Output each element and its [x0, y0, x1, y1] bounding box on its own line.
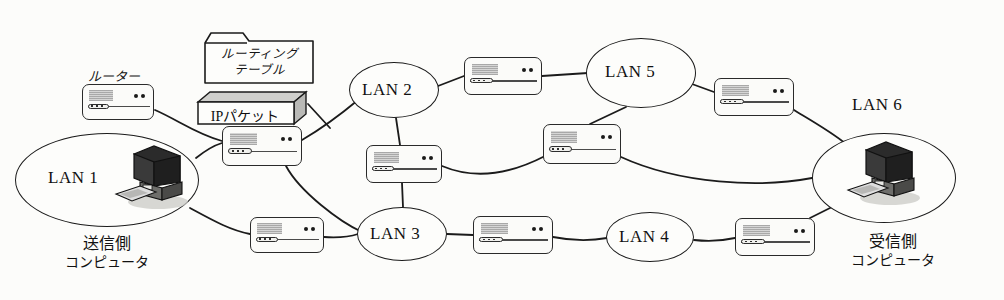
router-status-leds: [794, 229, 805, 233]
router-display: [481, 223, 508, 235]
lan-label-lan5: LAN 5: [605, 62, 655, 82]
router-port-slot: [372, 166, 394, 171]
router-display: [722, 85, 749, 97]
router-status-leds: [601, 135, 612, 139]
link-r-lan1-bottom-to-lan3: [324, 234, 358, 237]
router-display: [472, 64, 498, 76]
ip-packet-label: IPパケット: [196, 105, 294, 125]
router-display: [551, 131, 577, 143]
router-port-slot: [549, 146, 572, 152]
router-r-lan1-bottom: [250, 217, 324, 253]
link-ip-packet-to-r-lan1-top: [308, 104, 330, 128]
link-lan2-to-r-lan2-lan5: [438, 76, 464, 86]
link-r-lan1-top-to-lan2: [302, 100, 358, 140]
routing-table-line1: ルーティング: [203, 47, 315, 62]
link-lan3-to-r-lan3-lan4: [447, 234, 473, 235]
receiver-caption: 受信側 コンピュータ: [828, 232, 958, 269]
router-status-leds: [281, 137, 292, 141]
router-display: [89, 90, 113, 101]
receiver-line2: コンピュータ: [828, 251, 958, 269]
link-lan1-to-r-lan1-bottom: [190, 208, 250, 234]
router-port-slot: [720, 99, 743, 104]
router-status-leds: [773, 89, 784, 93]
router-status-leds: [134, 94, 145, 98]
lan-label-lan2: LAN 2: [362, 80, 412, 100]
router-port-slot: [88, 104, 109, 109]
router-r-lan1-top: [222, 126, 302, 166]
router-r-lan5-lan6: [714, 78, 794, 116]
link-lan5-to-r-lan5-lan6: [692, 84, 714, 92]
router-status-leds: [522, 68, 533, 72]
link-lan1-to-r-lan1-top: [196, 143, 222, 158]
router-r-mid: [543, 124, 621, 164]
link-lan5-to-r-mid: [590, 107, 626, 124]
router-legend-label: ルーター: [88, 66, 140, 85]
network-diagram: LAN 1LAN 2LAN 3LAN 4LAN 5LAN 6 ルーター ルーティ…: [0, 0, 1004, 300]
router-display: [230, 133, 257, 145]
lan-label-lan4: LAN 4: [619, 227, 669, 247]
computer-receiver: [842, 138, 924, 214]
router-port-slot: [479, 237, 502, 242]
lan-label-lan6: LAN 6: [852, 95, 902, 115]
router-status-leds: [532, 227, 543, 231]
router-display: [743, 225, 770, 237]
router-display: [257, 223, 281, 234]
router-status-leds: [304, 227, 315, 231]
router-port-slot: [256, 237, 278, 242]
computer-sender: [110, 142, 192, 218]
desktop-computer-icon: [842, 138, 924, 210]
router-r-lan2-lan5: [464, 57, 542, 95]
sender-caption: 送信側 コンピュータ: [42, 234, 172, 271]
router-r-lan2-south: [366, 145, 442, 183]
router-r-lan3-lan4: [473, 216, 553, 254]
router-r-lan4-lan6: [735, 218, 815, 256]
link-r-lan3-lan4-to-lan4: [553, 237, 607, 240]
router-r-legend: [82, 84, 154, 120]
sender-line1: 送信側: [42, 234, 172, 253]
router-status-leds: [422, 156, 433, 160]
routing-table-line2: テーブル: [203, 63, 315, 78]
link-lan2-to-r-lan2-south: [396, 118, 400, 145]
lan-label-lan1: LAN 1: [48, 168, 98, 188]
desktop-computer-icon: [110, 142, 192, 214]
link-r-lan2-lan5-to-lan5: [542, 73, 588, 76]
ip-packet-box: IPパケット: [196, 90, 308, 124]
router-port-slot: [228, 148, 251, 154]
receiver-line1: 受信側: [828, 232, 958, 251]
router-port-slot: [741, 239, 764, 244]
sender-line2: コンピュータ: [42, 253, 172, 271]
lan-label-lan3: LAN 3: [370, 224, 420, 244]
link-r-lan2-south-to-lan3: [402, 183, 403, 207]
router-display: [374, 152, 399, 164]
router-port-slot: [470, 78, 493, 83]
link-r-lan5-lan6-to-lan6: [794, 110, 848, 146]
link-r-mid-to-lan6: [621, 157, 812, 183]
link-lan4-to-r-lan4-lan6: [694, 238, 735, 241]
link-r-lan2-south-to-r-mid: [442, 156, 545, 174]
routing-table-callout: ルーティング テーブル: [203, 31, 315, 85]
